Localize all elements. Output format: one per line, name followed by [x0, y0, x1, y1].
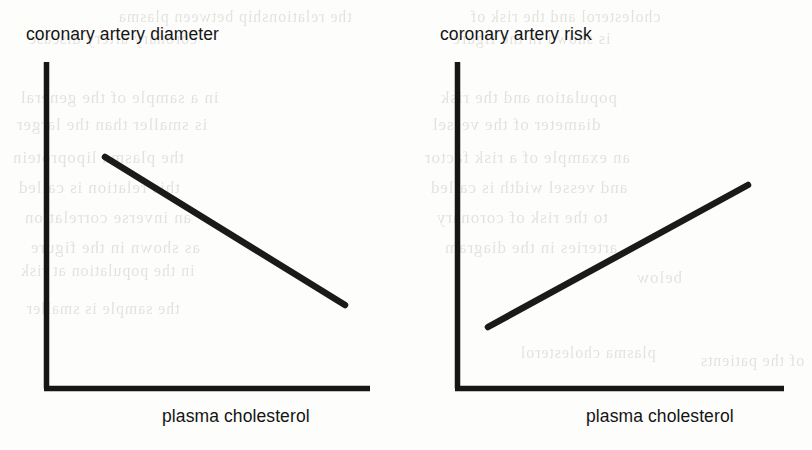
- plot-area-risk: [406, 0, 812, 450]
- x-axis-label-diameter: plasma cholesterol: [162, 406, 310, 427]
- chart-coronary-artery-risk: coronary artery risk plasma cholesterol: [406, 0, 812, 450]
- trend-line-diameter: [105, 157, 345, 305]
- trend-line-risk: [488, 185, 748, 327]
- x-axis-label-risk: plasma cholesterol: [586, 406, 734, 427]
- chart-coronary-artery-diameter: coronary artery diameter plasma choleste…: [0, 0, 406, 450]
- figure-page: the relationship between plasmacholester…: [0, 0, 812, 450]
- plot-area-diameter: [0, 0, 406, 450]
